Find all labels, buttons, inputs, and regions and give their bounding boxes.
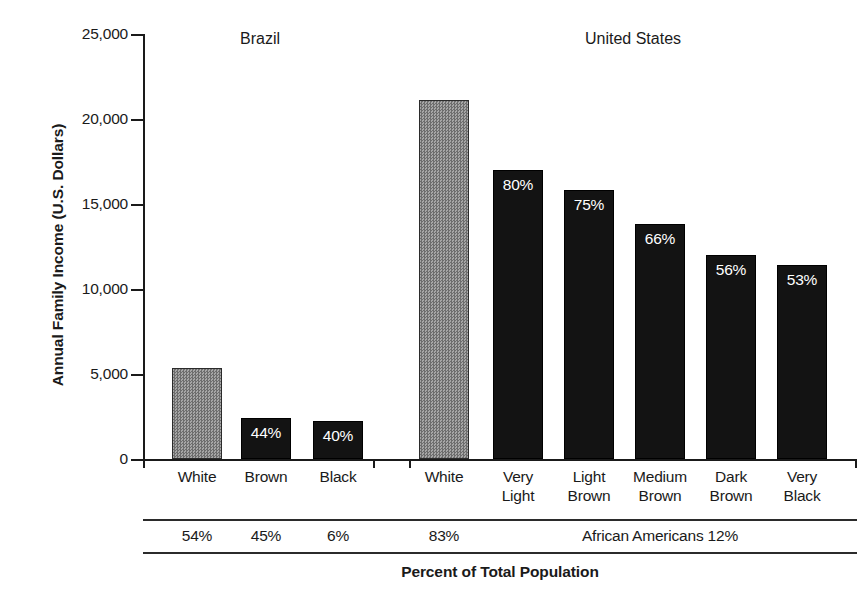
bar-value-brazil-black: 40% [314, 427, 362, 444]
cat-label-us-very-black: Very Black [762, 468, 842, 506]
group-header-united-states: United States [553, 30, 713, 48]
x-tick-brazil-end [373, 461, 375, 468]
y-tick-label-25000: 25,000 [42, 25, 128, 43]
population-label-brazil-black: 6% [298, 527, 378, 545]
population-label-us-white: 83% [404, 527, 484, 545]
bar-brazil-brown[interactable]: 44% [241, 418, 291, 459]
y-tick-5000 [131, 374, 144, 376]
y-tick-25000 [131, 34, 144, 36]
cat-label-us-very-light: Very Light [478, 468, 558, 506]
population-label-brazil-white: 54% [157, 527, 237, 545]
bar-value-us-dark-brown: 56% [707, 261, 755, 278]
cat-label-us-dark-brown: Dark Brown [691, 468, 771, 506]
cat-label-line: Very [762, 468, 842, 487]
bar-value-us-very-black: 53% [778, 271, 826, 288]
cat-label-us-white: White [404, 468, 484, 487]
x-tick-0 [143, 461, 145, 468]
bar-us-very-black[interactable]: 53% [777, 265, 827, 459]
group-header-brazil: Brazil [180, 30, 340, 48]
y-tick-label-15000: 15,000 [42, 195, 128, 213]
y-tick-label-5000: 5,000 [42, 365, 128, 383]
population-label-african-americans: African Americans 12% [500, 527, 820, 545]
bar-value-us-light-brown: 75% [565, 196, 613, 213]
y-tick-15000 [131, 204, 144, 206]
cat-label-line: Brown [691, 487, 771, 506]
cat-label-line: Brown [226, 468, 306, 487]
population-band-top-rule [143, 519, 857, 521]
bar-us-dark-brown[interactable]: 56% [706, 255, 756, 459]
cat-label-line: Very [478, 468, 558, 487]
bar-value-us-medium-brown: 66% [636, 230, 684, 247]
bar-us-white[interactable] [419, 100, 469, 459]
chart-container: Annual Family Income (U.S. Dollars) 25,0… [0, 0, 865, 609]
cat-label-us-medium-brown: Medium Brown [618, 468, 702, 506]
y-axis-line [143, 34, 145, 460]
bar-us-light-brown[interactable]: 75% [564, 190, 614, 459]
y-tick-label-0: 0 [42, 450, 128, 468]
cat-label-line: Dark [691, 468, 771, 487]
cat-label-line: White [404, 468, 484, 487]
y-tick-20000 [131, 119, 144, 121]
bar-value-us-very-light: 80% [494, 176, 542, 193]
cat-label-line: Light [478, 487, 558, 506]
cat-label-line: White [157, 468, 237, 487]
bar-brazil-black[interactable]: 40% [313, 421, 363, 459]
population-band-bottom-rule [143, 552, 857, 554]
x-axis-line [143, 459, 857, 461]
y-tick-label-10000: 10,000 [42, 280, 128, 298]
cat-label-brazil-black: Black [298, 468, 378, 487]
y-axis-title: Annual Family Income (U.S. Dollars) [49, 105, 67, 405]
bar-us-very-light[interactable]: 80% [493, 170, 543, 459]
x-tick-us-start [409, 461, 411, 468]
cat-label-line: Black [298, 468, 378, 487]
x-axis-title: Percent of Total Population [143, 563, 857, 581]
cat-label-brazil-brown: Brown [226, 468, 306, 487]
population-label-brazil-brown: 45% [226, 527, 306, 545]
cat-label-us-light-brown: Light Brown [549, 468, 629, 506]
cat-label-line: Brown [549, 487, 629, 506]
cat-label-line: Brown [618, 487, 702, 506]
cat-label-line: Light [549, 468, 629, 487]
bar-value-brazil-brown: 44% [242, 424, 290, 441]
y-tick-label-20000: 20,000 [42, 110, 128, 128]
x-tick-us-end [855, 461, 857, 468]
bar-brazil-white[interactable] [172, 368, 222, 459]
y-tick-10000 [131, 289, 144, 291]
cat-label-brazil-white: White [157, 468, 237, 487]
bar-us-medium-brown[interactable]: 66% [635, 224, 685, 459]
cat-label-line: Medium [618, 468, 702, 487]
cat-label-line: Black [762, 487, 842, 506]
